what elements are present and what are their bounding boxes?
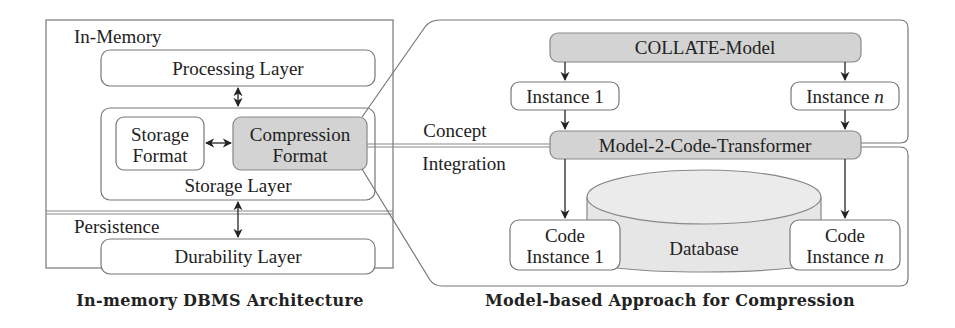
database-top <box>587 170 821 224</box>
right-caption: Model-based Approach for Compression <box>485 291 855 310</box>
code-instance-1-label-1: Code <box>545 225 585 246</box>
code-instance-1-label-2: Instance 1 <box>526 246 604 267</box>
database-cylinder: Database <box>587 170 821 272</box>
database-label: Database <box>669 238 739 259</box>
storage-layer-label: Storage Layer <box>184 175 292 196</box>
concept-label: Concept <box>423 120 487 141</box>
collate-model-label: COLLATE-Model <box>635 37 775 58</box>
storage-format-label-1: Storage <box>131 124 189 145</box>
persistence-label: Persistence <box>74 216 159 237</box>
code-instance-n-label-1: Code <box>825 225 865 246</box>
code-instance-n-label-2: Instance n <box>806 246 884 267</box>
storage-format-label-2: Format <box>133 145 189 166</box>
left-caption: In-memory DBMS Architecture <box>76 291 363 310</box>
compression-format-label-1: Compression <box>250 124 351 145</box>
processing-layer-label: Processing Layer <box>172 58 304 79</box>
integration-label: Integration <box>422 153 506 174</box>
diagram: In-Memory Processing Layer Storage Layer… <box>0 0 955 328</box>
in-memory-dbms-architecture: In-Memory Processing Layer Storage Layer… <box>46 20 393 310</box>
instance-1-label: Instance 1 <box>526 86 604 107</box>
durability-layer-label: Durability Layer <box>174 246 302 267</box>
model-based-approach: COLLATE-Model Instance 1 Instance n Mode… <box>485 33 900 310</box>
compression-format-label-2: Format <box>273 145 329 166</box>
in-memory-label: In-Memory <box>74 26 162 47</box>
instance-n-label: Instance n <box>806 86 884 107</box>
model-2-code-transformer-label: Model-2-Code-Transformer <box>599 135 812 156</box>
